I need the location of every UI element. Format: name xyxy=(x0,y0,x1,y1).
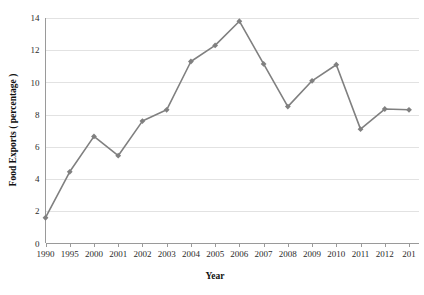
x-tick-label: 1990 xyxy=(37,249,56,259)
x-tick-label: 2009 xyxy=(303,249,322,259)
chart-container: 02468101214 1990199520002001200220032004… xyxy=(0,0,424,295)
x-tick-label: 2003 xyxy=(158,249,177,259)
x-tick-label: 2001 xyxy=(109,249,127,259)
x-tick-label: 2010 xyxy=(327,249,346,259)
x-tick-label: 2011 xyxy=(352,249,370,259)
y-tick-label: 8 xyxy=(35,110,40,120)
x-tick-label: 2006 xyxy=(230,249,249,259)
x-tick-label: 2004 xyxy=(182,249,201,259)
y-tick-label: 10 xyxy=(31,78,41,88)
x-axis-title: Year xyxy=(206,271,226,281)
y-axis-title: Food Exports ( percentage ) xyxy=(8,74,19,187)
y-tick-label: 0 xyxy=(35,239,40,249)
y-tick-label: 14 xyxy=(31,13,41,23)
x-tick-label: 2002 xyxy=(133,249,151,259)
x-tick-label: 1995 xyxy=(61,249,80,259)
y-tick-label: 6 xyxy=(35,142,40,152)
x-tick-label: 2005 xyxy=(206,249,225,259)
x-tick-label: 201 xyxy=(402,249,416,259)
y-tick-label: 4 xyxy=(35,174,40,184)
x-tick-label: 2012 xyxy=(376,249,394,259)
y-tick-label: 2 xyxy=(35,206,40,216)
x-tick-label: 2000 xyxy=(85,249,104,259)
x-tick-label: 2008 xyxy=(279,249,298,259)
line-chart: 02468101214 1990199520002001200220032004… xyxy=(0,0,424,295)
y-tick-label: 12 xyxy=(31,45,40,55)
x-tick-label: 2007 xyxy=(255,249,274,259)
